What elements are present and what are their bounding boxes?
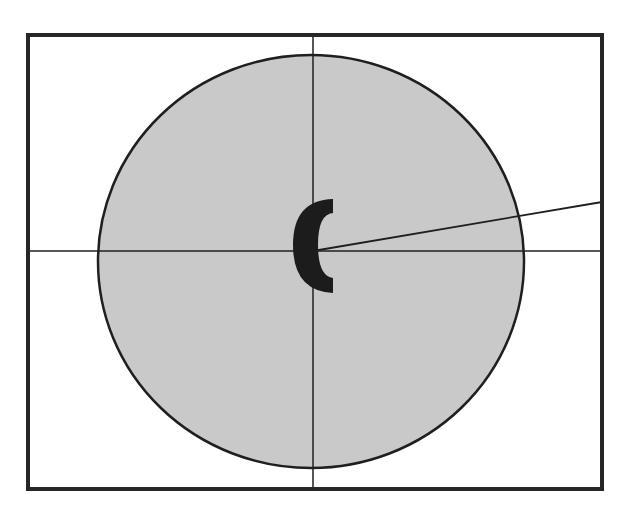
diagram-canvas: [0, 0, 630, 519]
